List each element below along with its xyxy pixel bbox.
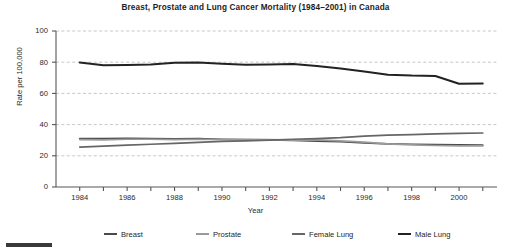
legend-swatch-icon — [398, 233, 411, 236]
y-axis-tick-label: 100 — [22, 26, 48, 35]
x-axis-tick-label: 1992 — [249, 193, 289, 202]
y-axis-tick-label: 80 — [22, 58, 48, 67]
legend-item[interactable]: Breast — [104, 226, 143, 242]
legend-item[interactable]: Male Lung — [398, 226, 450, 242]
legend-label: Female Lung — [309, 230, 353, 239]
y-axis-tick-label: 60 — [22, 89, 48, 98]
x-axis-tick-label: 1996 — [344, 193, 384, 202]
legend-swatch-icon — [292, 233, 305, 236]
legend-item[interactable]: Female Lung — [292, 226, 353, 242]
chart-legend: BreastProstateFemale LungMale Lung — [0, 226, 511, 242]
y-axis-tick-label: 0 — [22, 182, 48, 191]
x-axis-tick-label: 1998 — [392, 193, 432, 202]
legend-swatch-icon — [104, 233, 117, 236]
x-axis-tick-label: 1986 — [107, 193, 147, 202]
x-axis-tick-label: 1994 — [297, 193, 337, 202]
legend-swatch-icon — [196, 233, 209, 236]
plot-area — [0, 0, 511, 251]
legend-label: Breast — [121, 230, 143, 239]
x-axis-tick-label: 1984 — [60, 193, 100, 202]
chart-figure: Breast, Prostate and Lung Cancer Mortali… — [0, 0, 511, 251]
y-axis-tick-label: 40 — [22, 120, 48, 129]
legend-label: Male Lung — [415, 230, 450, 239]
x-axis-tick-label: 1990 — [202, 193, 242, 202]
legend-item[interactable]: Prostate — [196, 226, 241, 242]
series-line-male-lung — [80, 63, 483, 84]
x-axis-tick-label: 2000 — [439, 193, 479, 202]
x-axis-tick-label: 1988 — [155, 193, 195, 202]
legend-label: Prostate — [213, 230, 241, 239]
y-axis-tick-label: 20 — [22, 151, 48, 160]
page-edge-mark — [6, 243, 52, 247]
